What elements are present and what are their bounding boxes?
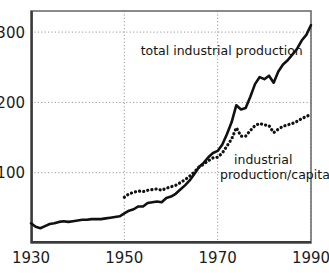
annotation-total-label: total industrial production bbox=[141, 43, 303, 58]
x-tick-label-1970: 1970 bbox=[199, 249, 237, 267]
y-tick-label-100: 100 bbox=[0, 164, 25, 182]
x-tick-label-1950: 1950 bbox=[105, 249, 143, 267]
annotation-per-capita-label-line2: production/capita bbox=[220, 167, 329, 182]
annotation-per-capita-label-line1: industrial bbox=[234, 152, 292, 167]
industrial-production-chart: 1930195019701990 100200300 total industr… bbox=[0, 0, 329, 273]
y-tick-label-200: 200 bbox=[0, 94, 25, 112]
y-axis-tick-labels: 100200300 bbox=[0, 24, 25, 183]
x-axis-tick-labels: 1930195019701990 bbox=[12, 249, 329, 267]
x-tick-label-1930: 1930 bbox=[12, 249, 50, 267]
y-tick-label-300: 300 bbox=[0, 24, 25, 42]
chart-canvas: 1930195019701990 100200300 total industr… bbox=[0, 0, 329, 273]
x-tick-label-1990: 1990 bbox=[292, 249, 329, 267]
